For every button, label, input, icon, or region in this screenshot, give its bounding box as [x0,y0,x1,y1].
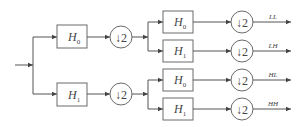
stage2-downsampler-2: ↓2 [231,69,253,91]
stage1-downsampler-1: ↓2 [110,83,132,105]
filter-sub: 1 [183,110,187,118]
output-label-lh: LH [268,42,279,50]
stage2-filter-3: H1 [163,98,193,120]
stage2-filter-2: H0 [163,69,193,91]
output-label-hl: HL [268,71,278,79]
downsample-label: ↓2 [236,16,248,30]
stage2-filter-1: H1 [163,40,193,62]
filter-sub: 1 [77,96,81,104]
stage2-downsampler-3: ↓2 [231,98,253,120]
downsample-label: ↓2 [115,88,127,102]
downsample-label: ↓2 [115,31,127,45]
stage2-downsampler-0: ↓2 [231,11,253,33]
filter-sub: 1 [183,52,187,60]
stage2-filter-0: H0 [163,11,193,33]
stage2-downsampler-1: ↓2 [231,40,253,62]
output-label-ll: LL [268,13,277,21]
filter-bank-diagram: H0 H1 ↓2 ↓2 H0 H1 H0 H1 [0,0,306,127]
output-label-hh: HH [267,100,279,108]
stage1-filter-h1: H1 [57,83,87,106]
filter-sub: 0 [77,38,81,46]
stage1-filter-h0: H0 [57,25,87,48]
downsample-label: ↓2 [236,45,248,59]
filter-sub: 0 [183,23,187,31]
stage1-downsampler-0: ↓2 [110,26,132,48]
filter-sub: 0 [183,81,187,89]
downsample-label: ↓2 [236,74,248,88]
downsample-label: ↓2 [236,103,248,117]
